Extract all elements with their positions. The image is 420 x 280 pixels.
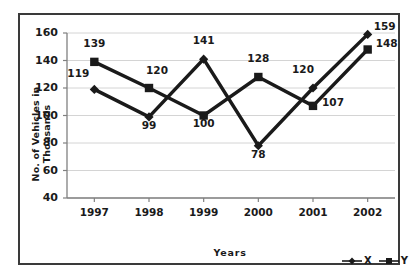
data-point-label: 78 bbox=[243, 148, 273, 160]
y-axis-tick-label: 60 bbox=[30, 164, 58, 177]
data-point-label: 139 bbox=[79, 37, 109, 49]
y-axis-tick-label: 100 bbox=[30, 109, 58, 122]
data-series-layer bbox=[90, 30, 373, 151]
data-point-label: 159 bbox=[370, 20, 400, 32]
data-point-marker[interactable] bbox=[363, 45, 371, 53]
x-axis-tick-label: 2001 bbox=[290, 206, 336, 218]
data-point-marker[interactable] bbox=[90, 58, 98, 66]
x-axis-tick-label: 1999 bbox=[181, 206, 227, 218]
data-point-label: 100 bbox=[189, 117, 219, 129]
x-axis-tick-label: 1997 bbox=[71, 206, 117, 218]
data-point-label: 107 bbox=[318, 96, 348, 108]
data-point-label: 141 bbox=[189, 34, 219, 46]
y-axis-tick-label: 140 bbox=[30, 54, 58, 67]
y-axis-tick-label: 80 bbox=[30, 136, 58, 149]
data-point-label: 120 bbox=[288, 63, 318, 75]
data-point-label: 120 bbox=[142, 64, 172, 76]
x-axis-tick-label: 2000 bbox=[235, 206, 281, 218]
data-point-label: 99 bbox=[134, 119, 164, 131]
data-point-label: 148 bbox=[372, 37, 402, 49]
y-axis-tick-label: 40 bbox=[30, 191, 58, 204]
y-axis-tick-label: 120 bbox=[30, 81, 58, 94]
data-point-label: 128 bbox=[243, 52, 273, 64]
x-axis-tick-label: 1998 bbox=[126, 206, 172, 218]
data-point-marker[interactable] bbox=[309, 102, 317, 110]
data-point-marker[interactable] bbox=[145, 84, 153, 92]
data-point-marker[interactable] bbox=[254, 73, 262, 81]
data-point-label: 119 bbox=[63, 67, 93, 79]
x-axis-tick-label: 2002 bbox=[345, 206, 391, 218]
y-axis-tick-label: 160 bbox=[30, 26, 58, 39]
